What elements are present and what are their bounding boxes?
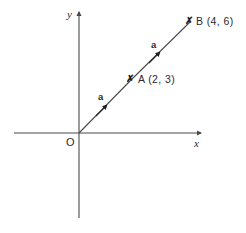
x-axis-label: x — [194, 138, 199, 149]
origin-label: O — [66, 137, 75, 148]
point-marker-a: ✗ — [126, 74, 134, 84]
vector-label-a-2: a — [151, 40, 156, 50]
vector-label-a-1: a — [98, 92, 103, 102]
vector-a-segment-2 — [131, 22, 190, 80]
vector-a-arrowhead-2 — [149, 53, 159, 63]
diagram-canvas — [0, 0, 246, 233]
point-label-a: A (2, 3) — [138, 74, 175, 85]
point-marker-b: ✗ — [185, 16, 193, 26]
point-label-b: B (4, 6) — [196, 16, 234, 27]
y-axis-label: y — [67, 9, 72, 20]
vector-diagram-figure: ✗ ✗ A (2, 3) B (4, 6) a a y x O — [0, 0, 246, 233]
vector-a-arrowhead-1 — [96, 106, 106, 116]
